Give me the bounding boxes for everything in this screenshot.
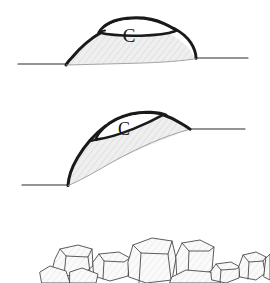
boulder-3: [93, 252, 130, 281]
geomorphology-figure: C C: [0, 0, 270, 283]
core-label-c: C: [123, 25, 136, 46]
core-label-c: C: [118, 119, 130, 139]
figure-sheet: C C: [0, 0, 270, 283]
